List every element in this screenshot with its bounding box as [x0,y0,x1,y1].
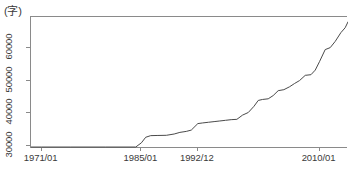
y-tick-mark [26,47,30,48]
plot-area [30,16,347,148]
x-tick-label: 1971/01 [24,152,58,163]
y-axis-unit-label: (字) [4,2,22,18]
x-tick-label: 1985/01 [124,152,158,163]
y-tick-label: 40000 [3,94,14,130]
x-tick-label: 1992/12 [180,152,214,163]
x-tick-label: 2010/01 [302,152,336,163]
x-tick-mark [197,148,198,151]
x-tick-mark [140,148,141,151]
chart-container: (字) 300004000050000600001971/011985/0119… [0,0,348,177]
y-tick-mark [26,145,30,146]
y-tick-label: 30000 [3,126,14,162]
data-series-line [31,17,348,149]
y-tick-label: 50000 [3,61,14,97]
x-tick-mark [41,148,42,151]
series-polyline [31,22,348,147]
x-tick-mark [319,148,320,151]
y-tick-label: 60000 [3,28,14,64]
y-tick-mark [26,112,30,113]
y-tick-mark [26,80,30,81]
